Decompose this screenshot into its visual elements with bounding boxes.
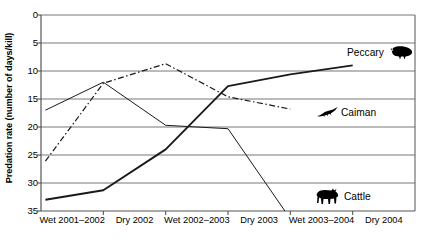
series-label-peccary: Peccary xyxy=(347,48,384,58)
peccary-silhouette-icon xyxy=(389,45,413,60)
series-label-caiman: Caiman xyxy=(341,108,376,118)
x-tick-label: Wet 2001–2002 xyxy=(39,216,104,225)
series-label-cattle: Cattle xyxy=(344,192,371,202)
x-tick-label: Dry 2002 xyxy=(116,216,154,225)
series-line-peccary xyxy=(45,65,352,199)
x-axis-tick-labels: Wet 2001–2002Dry 2002Wet 2002–2003Dry 20… xyxy=(41,216,415,236)
predation-rate-chart: Predation rate (number of days/kill) 051… xyxy=(0,0,425,244)
x-tick-label: Wet 2002–2003 xyxy=(164,216,229,225)
series-lines xyxy=(45,64,352,219)
x-tick-label: Dry 2003 xyxy=(240,216,278,225)
axis-ticks xyxy=(37,15,353,215)
plot-area xyxy=(0,0,425,244)
x-tick-label: Dry 2004 xyxy=(365,216,403,225)
x-tick-label: Wet 2003–2004 xyxy=(289,216,354,225)
caiman-silhouette-icon xyxy=(316,106,338,119)
series-line-cattle xyxy=(45,82,290,219)
cattle-silhouette-icon xyxy=(315,188,340,205)
